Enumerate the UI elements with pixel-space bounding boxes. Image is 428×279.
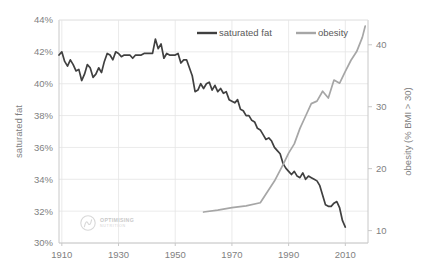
series-line-obesity <box>204 26 366 212</box>
y2-axis-tick-label: 20 <box>376 163 387 174</box>
line-chart: 30%32%34%36%38%40%42%44%1020304019101930… <box>0 0 428 279</box>
y-axis-tick-label: 38% <box>34 110 54 121</box>
x-axis-tick-label: 2010 <box>335 249 356 260</box>
y2-axis-tick-label: 30 <box>376 101 387 112</box>
y-axis-tick-label: 36% <box>34 142 54 153</box>
y2-axis-tick-label: 10 <box>376 225 387 236</box>
y-axis-tick-label: 44% <box>34 14 54 25</box>
x-axis-tick-label: 1950 <box>165 249 186 260</box>
y2-axis-tick-label: 40 <box>376 39 387 50</box>
y-axis-tick-label: 30% <box>34 237 54 248</box>
watermark-optimising-nutrition: OPTIMISINGNUTRITION <box>81 216 134 230</box>
y2-axis-title: obesity (% BMI > 30) <box>402 87 413 175</box>
legend-label-obesity: obesity <box>318 27 348 38</box>
y-axis-tick-label: 32% <box>34 206 54 217</box>
x-axis-tick-label: 1930 <box>108 249 129 260</box>
y-axis-tick-label: 40% <box>34 78 54 89</box>
series-line-saturated-fat <box>59 39 345 227</box>
y-axis-tick-label: 34% <box>34 174 54 185</box>
x-axis-tick-label: 1990 <box>278 249 299 260</box>
x-axis-tick-label: 1910 <box>51 249 72 260</box>
watermark-line1: OPTIMISING <box>100 217 134 223</box>
y-axis-tick-label: 42% <box>34 46 54 57</box>
x-axis-tick-label: 1970 <box>221 249 242 260</box>
legend-label-saturated-fat: saturated fat <box>219 27 272 38</box>
y-axis-title: saturated fat <box>13 105 24 158</box>
chart-container: 30%32%34%36%38%40%42%44%1020304019101930… <box>0 0 428 279</box>
watermark-logo-glyph <box>84 220 91 227</box>
watermark-line2: NUTRITION <box>100 224 126 228</box>
